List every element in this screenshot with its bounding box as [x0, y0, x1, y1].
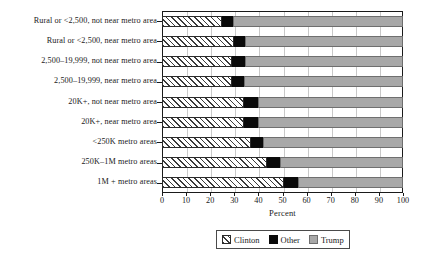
bar-segment-clinton: [162, 76, 232, 87]
bar-segment-other: [232, 76, 244, 87]
x-axis-tick-label: 0: [160, 196, 164, 205]
bar-segment-clinton: [162, 117, 244, 128]
bar-segment-other: [222, 16, 233, 27]
bars-layer: [162, 11, 403, 193]
bar-segment-other: [232, 56, 245, 67]
bar-segment-clinton: [162, 177, 284, 188]
bar-row: [162, 157, 403, 168]
bar-segment-trump: [245, 56, 403, 67]
bar-segment-trump: [298, 177, 403, 188]
x-axis-tick-label: 10: [182, 196, 190, 205]
legend-item: Trump: [309, 235, 344, 245]
y-axis-labels: Rural or <2,500, not near metro areaRura…: [0, 11, 157, 193]
bar-segment-trump: [263, 137, 403, 148]
legend-label: Other: [281, 235, 300, 245]
y-axis-label: 250K–1M metro areas: [0, 157, 157, 166]
bar-segment-other: [284, 177, 298, 188]
y-axis-label: <250K metro areas: [0, 137, 157, 146]
bar-row: [162, 97, 403, 108]
bar-segment-other: [244, 117, 258, 128]
bar-segment-trump: [258, 97, 403, 108]
bar-segment-clinton: [162, 137, 251, 148]
bar-segment-clinton: [162, 56, 232, 67]
bar-segment-other: [251, 137, 263, 148]
y-axis-label: 2,500–19,999, not near metro area: [0, 56, 157, 65]
x-axis-tick-label: 100: [397, 196, 409, 205]
y-axis-label: 1M + metro areas: [0, 177, 157, 186]
bar-row: [162, 117, 403, 128]
chart-legend: ClintonOtherTrump: [216, 230, 350, 249]
bar-segment-clinton: [162, 16, 222, 27]
bar-row: [162, 137, 403, 148]
x-axis-tick-label: 40: [254, 196, 262, 205]
x-axis-tick-label: 50: [278, 196, 286, 205]
y-axis-label: 20K+, not near metro area: [0, 97, 157, 106]
x-axis-tick-label: 30: [230, 196, 238, 205]
bar-row: [162, 177, 403, 188]
bar-segment-trump: [233, 16, 403, 27]
legend-item: Other: [269, 235, 300, 245]
x-axis-tick-label: 70: [327, 196, 335, 205]
bar-segment-trump: [280, 157, 403, 168]
x-axis-tick-label: 80: [351, 196, 359, 205]
x-axis-tick-label: 90: [375, 196, 383, 205]
bar-row: [162, 76, 403, 87]
x-axis-tick-label: 60: [303, 196, 311, 205]
y-axis-label: Rural or <2,500, near metro area: [0, 36, 157, 45]
legend-item: Clinton: [222, 235, 260, 245]
x-axis-ticks: 0102030405060708090100: [162, 193, 403, 209]
bar-segment-clinton: [162, 97, 244, 108]
x-axis-title: Percent: [162, 208, 403, 218]
hatch-swatch-icon: [222, 235, 231, 244]
y-axis-label: 2,500–19,999, near metro area: [0, 76, 157, 85]
bar-segment-trump: [258, 117, 403, 128]
gray-swatch-icon: [309, 235, 318, 244]
bar-segment-other: [267, 157, 280, 168]
bar-segment-other: [244, 97, 258, 108]
bar-row: [162, 16, 403, 27]
bar-segment-clinton: [162, 36, 234, 47]
y-axis-label: 20K+, near metro area: [0, 117, 157, 126]
bar-segment-other: [234, 36, 245, 47]
y-axis-label: Rural or <2,500, not near metro area: [0, 16, 157, 25]
x-axis-tick-label: 20: [206, 196, 214, 205]
black-swatch-icon: [269, 235, 278, 244]
chart-figure: Rural or <2,500, not near metro areaRura…: [0, 0, 438, 257]
bar-segment-trump: [244, 76, 403, 87]
legend-label: Clinton: [234, 235, 260, 245]
legend-label: Trump: [321, 235, 344, 245]
bar-row: [162, 56, 403, 67]
bar-row: [162, 36, 403, 47]
bar-segment-trump: [245, 36, 403, 47]
bar-segment-clinton: [162, 157, 267, 168]
